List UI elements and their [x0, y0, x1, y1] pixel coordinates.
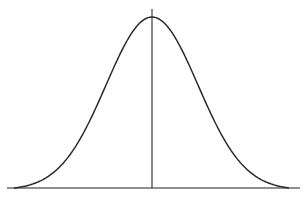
bell-curve-figure — [0, 0, 307, 198]
bell-curve-diagram — [0, 0, 307, 198]
